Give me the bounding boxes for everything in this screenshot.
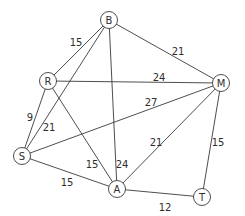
edge-weight-b-a: 24 <box>116 159 129 170</box>
edge-weight-r-a: 15 <box>86 159 99 170</box>
edge-b-s <box>22 20 109 156</box>
edge-weight-b-r: 15 <box>70 37 83 48</box>
edge-weight-a-t: 12 <box>159 202 172 213</box>
nodes-layer: BRMSAT <box>14 12 230 206</box>
node-m: M <box>213 75 230 92</box>
node-s: S <box>14 148 31 165</box>
edge-r-m <box>48 81 221 83</box>
edge-labels-layer: 15212124249152715211215 <box>27 37 225 213</box>
node-label: B <box>106 15 113 26</box>
edge-a-t <box>117 189 202 197</box>
node-label: R <box>45 76 52 87</box>
edge-weight-b-m: 21 <box>172 46 185 57</box>
node-label: M <box>217 78 226 89</box>
node-a: A <box>109 181 126 198</box>
edge-weight-a-m: 21 <box>150 137 163 148</box>
graph-diagram: 15212124249152715211215 BRMSAT <box>0 0 245 216</box>
node-label: T <box>198 192 206 203</box>
edge-r-a <box>48 81 117 189</box>
node-t: T <box>194 189 211 206</box>
edge-weight-b-s: 21 <box>43 122 56 133</box>
node-label: S <box>19 151 25 162</box>
edge-weight-r-s: 9 <box>27 112 33 123</box>
edge-weight-m-t: 15 <box>212 137 225 148</box>
edges-layer <box>22 20 221 197</box>
edge-s-m <box>22 83 221 156</box>
edge-a-m <box>117 83 221 189</box>
edge-weight-r-m: 24 <box>153 72 166 83</box>
edge-weight-s-a: 15 <box>61 177 74 188</box>
node-r: R <box>40 73 57 90</box>
node-label: A <box>114 184 121 195</box>
node-b: B <box>101 12 118 29</box>
edge-b-r <box>48 20 109 81</box>
edge-weight-s-m: 27 <box>145 97 158 108</box>
